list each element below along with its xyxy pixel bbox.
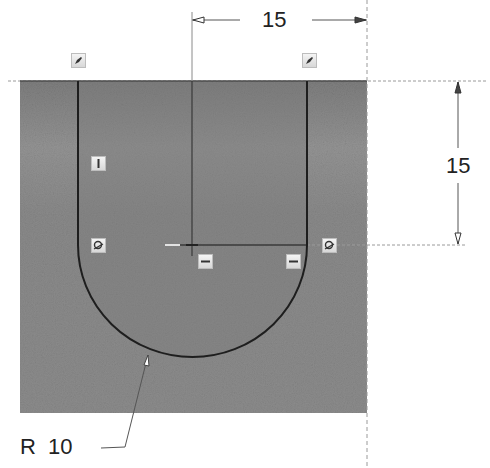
horizontal-dimension-label[interactable]: 15 [262,9,286,31]
sketch-canvas[interactable] [0,0,490,468]
tangent-icon[interactable] [91,238,106,253]
coincident-icon[interactable] [71,53,86,68]
vertical-icon[interactable] [91,156,106,171]
vertical-dimension-label[interactable]: 15 [446,155,470,177]
tangent-icon[interactable] [322,238,337,253]
horizontal-icon[interactable] [198,254,213,269]
coincident-icon[interactable] [302,53,317,68]
radius-dimension-label[interactable]: R 10 [20,436,73,458]
horizontal-icon[interactable] [286,254,301,269]
